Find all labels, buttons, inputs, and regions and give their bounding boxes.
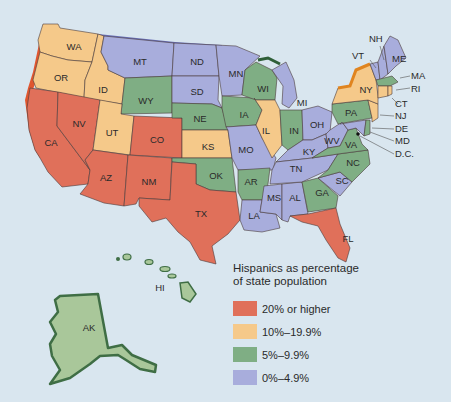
label-TN: TN <box>290 163 303 174</box>
label-MT: MT <box>133 56 147 67</box>
label-RI: RI <box>411 83 421 94</box>
label-HI: HI <box>155 282 165 293</box>
label-MO: MO <box>238 144 253 155</box>
label-WV: WV <box>324 135 340 146</box>
legend-label: 5%–9.9% <box>262 349 309 361</box>
label-PA: PA <box>345 107 358 118</box>
label-AL: AL <box>289 192 301 203</box>
legend-title-line1: Hispanics as percentage <box>233 262 433 275</box>
legend-item-10-19: 10%–19.9% <box>233 320 433 343</box>
label-CT: CT <box>395 98 408 109</box>
legend-label: 20% or higher <box>262 303 331 315</box>
state-DC-dot[interactable] <box>356 132 360 136</box>
legend-item-0-4: 0%–4.9% <box>233 366 433 389</box>
label-AZ: AZ <box>100 172 112 183</box>
label-OK: OK <box>209 170 223 181</box>
label-MI: MI <box>297 97 308 108</box>
lake-superior-shore <box>258 58 280 64</box>
label-NC: NC <box>346 157 360 168</box>
legend-swatch <box>233 324 257 339</box>
label-SC: SC <box>335 175 348 186</box>
label-NV: NV <box>72 118 86 129</box>
label-LA: LA <box>248 210 260 221</box>
state-FL[interactable] <box>290 208 350 262</box>
label-ID: ID <box>98 84 108 95</box>
state-CT[interactable] <box>378 86 388 98</box>
label-WA: WA <box>67 41 83 52</box>
label-UT: UT <box>106 127 119 138</box>
legend-item-5-9: 5%–9.9% <box>233 343 433 366</box>
label-KS: KS <box>202 141 215 152</box>
label-ME: ME <box>392 53 406 64</box>
legend-title: Hispanics as percentage of state populat… <box>233 262 433 288</box>
legend-swatch <box>233 347 257 362</box>
state-AK[interactable] <box>50 294 156 384</box>
label-DE: DE <box>395 123 408 134</box>
label-SD: SD <box>190 86 203 97</box>
legend-swatch <box>233 301 257 316</box>
label-VT: VT <box>352 50 364 61</box>
label-AK: AK <box>83 322 96 333</box>
label-MS: MS <box>267 192 281 203</box>
legend: Hispanics as percentage of state populat… <box>233 262 433 389</box>
state-HI[interactable] <box>116 254 196 302</box>
label-OR: OR <box>54 72 68 83</box>
label-TX: TX <box>195 208 208 219</box>
label-AR: AR <box>244 176 257 187</box>
label-MD: MD <box>395 135 410 146</box>
label-CA: CA <box>44 137 58 148</box>
label-GA: GA <box>315 187 329 198</box>
label-OH: OH <box>310 119 324 130</box>
label-VA: VA <box>345 139 358 150</box>
legend-title-line2: of state population <box>233 275 433 288</box>
label-FL: FL <box>342 233 353 244</box>
label-NE: NE <box>193 113 206 124</box>
label-NY: NY <box>359 84 373 95</box>
label-DC: D.C. <box>395 148 414 159</box>
legend-swatch <box>233 370 257 385</box>
label-CO: CO <box>150 134 164 145</box>
legend-label: 0%–4.9% <box>262 372 309 384</box>
label-NJ: NJ <box>395 110 407 121</box>
legend-label: 10%–19.9% <box>262 326 321 338</box>
label-MN: MN <box>229 68 244 79</box>
label-WI: WI <box>257 83 269 94</box>
label-MA: MA <box>411 70 426 81</box>
label-NM: NM <box>142 176 157 187</box>
bottom-margin <box>0 402 451 410</box>
label-ND: ND <box>190 56 204 67</box>
label-KY: KY <box>303 146 316 157</box>
label-NH: NH <box>369 33 383 44</box>
label-IN: IN <box>289 125 299 136</box>
state-RI[interactable] <box>388 86 392 96</box>
legend-item-20-plus: 20% or higher <box>233 297 433 320</box>
label-WY: WY <box>138 95 154 106</box>
label-IL: IL <box>262 125 270 136</box>
label-IA: IA <box>240 109 250 120</box>
